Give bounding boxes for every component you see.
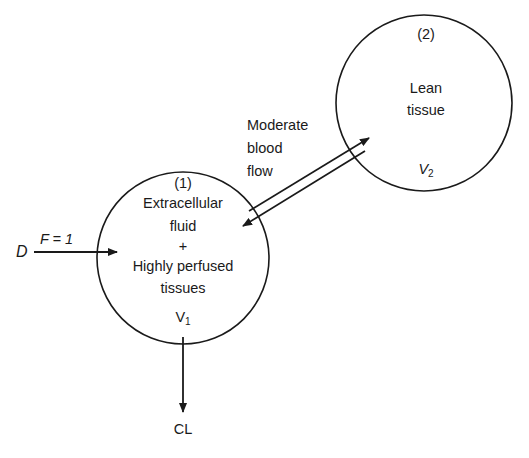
compartment-2-label-line1: Lean xyxy=(386,80,466,97)
compartment-2-label-line2: tissue xyxy=(386,102,466,119)
compartment-1-label-line1: Extracellular xyxy=(113,195,253,212)
exchange-label-line2: blood xyxy=(247,140,282,157)
compartment-1-label-line5: tissues xyxy=(138,280,228,297)
exchange-label-line1: Moderate xyxy=(247,117,308,134)
exchange-label-line3: flow xyxy=(247,163,273,180)
compartment-1-volume: V1 xyxy=(163,309,203,330)
bioavailability-label: F = 1 xyxy=(40,231,73,248)
compartment-1-label-line4: Highly perfused xyxy=(108,258,258,275)
volume-1-subscript: 1 xyxy=(185,316,191,327)
volume-2-subscript: 2 xyxy=(428,168,434,179)
diagram-canvas xyxy=(0,0,529,458)
volume-2-base: V xyxy=(418,161,428,177)
compartment-2-volume: V2 xyxy=(406,161,446,182)
compartment-1-label-line2: fluid xyxy=(143,218,223,235)
compartment-1-label-plus: + xyxy=(163,238,203,255)
clearance-label: CL xyxy=(163,421,203,438)
dose-label: D xyxy=(16,243,28,260)
volume-1-base: V xyxy=(175,309,185,325)
compartment-2-number: (2) xyxy=(406,26,446,43)
compartment-1-number: (1) xyxy=(163,175,203,192)
